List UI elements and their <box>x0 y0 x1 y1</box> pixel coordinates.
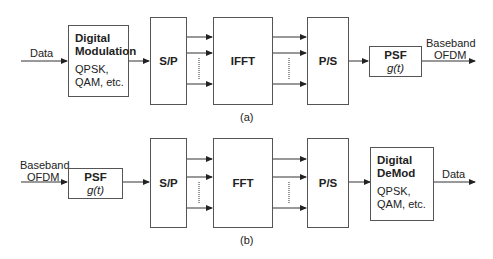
demod-title-line1: Digital <box>377 154 433 167</box>
modulation-sub-line1: QPSK, <box>75 63 128 76</box>
digital-demod-block: Digital DeMod QPSK, QAM, etc. <box>370 147 434 221</box>
input-label-b-line2: OFDM <box>27 171 59 183</box>
sp-block-b: S/P <box>150 138 187 228</box>
psf-func-b: g(t) <box>87 184 104 197</box>
modulation-title-line2: Modulation <box>75 45 128 58</box>
modulation-title-line1: Digital <box>75 32 128 45</box>
output-label-a-line2: OFDM <box>434 49 466 61</box>
digital-modulation-block: Digital Modulation QPSK, QAM, etc. <box>68 25 129 97</box>
demod-sub-line1: QPSK, <box>377 185 433 198</box>
fft-block: FFT <box>213 138 273 228</box>
sp-block-a: S/P <box>150 17 187 105</box>
input-data-label: Data <box>30 47 53 59</box>
psf-title-b: PSF <box>84 171 106 184</box>
output-data-label: Data <box>442 168 465 180</box>
ps-block-a: P/S <box>307 17 349 105</box>
psf-block-b: PSF g(t) <box>68 168 123 199</box>
ifft-block: IFFT <box>213 17 273 105</box>
caption-b: (b) <box>240 234 253 246</box>
input-label-b-line1: Baseband <box>20 159 70 171</box>
psf-func-a: g(t) <box>387 62 404 75</box>
demod-sub-line2: QAM, etc. <box>377 198 433 211</box>
demod-title-line2: DeMod <box>377 167 433 180</box>
psf-block-a: PSF g(t) <box>369 46 422 77</box>
modulation-sub-line2: QAM, etc. <box>75 76 128 89</box>
psf-title-a: PSF <box>384 49 406 62</box>
caption-a: (a) <box>240 111 253 123</box>
output-label-a-line1: Baseband <box>426 37 476 49</box>
ps-block-b: P/S <box>307 138 349 228</box>
